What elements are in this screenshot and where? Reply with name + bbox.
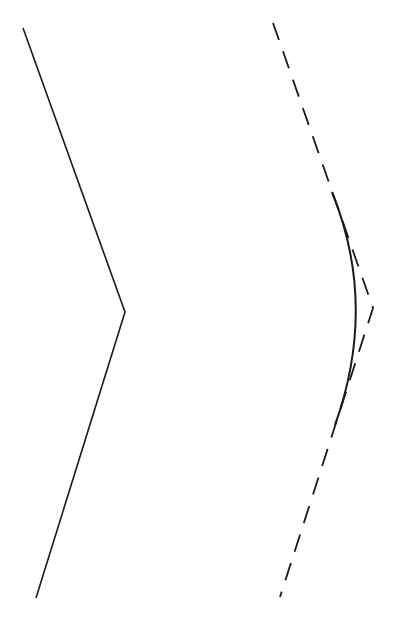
solid-chevron-line (23, 28, 125, 598)
dashed-chevron-line (273, 23, 373, 597)
diagram-canvas (0, 0, 394, 631)
rounded-corner-curve (332, 192, 356, 425)
